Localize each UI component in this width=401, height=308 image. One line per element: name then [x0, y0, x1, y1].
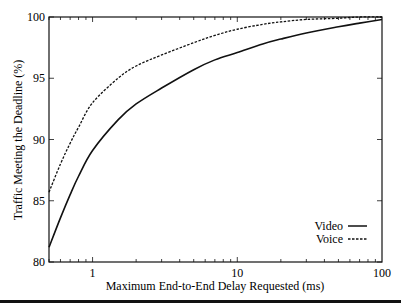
x-tick-labels: 110100 [90, 266, 391, 280]
legend: Video Voice [314, 219, 367, 246]
y-tick-labels: 80859095100 [27, 10, 45, 269]
legend-label-voice: Voice [316, 232, 343, 246]
series-line-voice [49, 17, 382, 192]
x-tick-label: 1 [90, 266, 96, 280]
y-tick-label: 100 [27, 10, 45, 24]
bottom-rule [0, 300, 401, 303]
x-axis-label: Maximum End-to-End Delay Requested (ms) [106, 279, 325, 293]
y-axis-label: Traffic Meeting the Deadline (%) [11, 60, 25, 221]
x-tick-label: 10 [231, 266, 243, 280]
y-tick-label: 85 [33, 194, 45, 208]
y-tick-label: 80 [33, 255, 45, 269]
legend-label-video: Video [314, 219, 343, 233]
y-tick-label: 95 [33, 71, 45, 85]
series-line-video [49, 19, 382, 247]
y-tick-label: 90 [33, 133, 45, 147]
x-tick-label: 100 [373, 266, 391, 280]
data-series [49, 17, 382, 247]
line-chart: 80859095100 110100 Maximum End-to-End De… [0, 0, 401, 308]
